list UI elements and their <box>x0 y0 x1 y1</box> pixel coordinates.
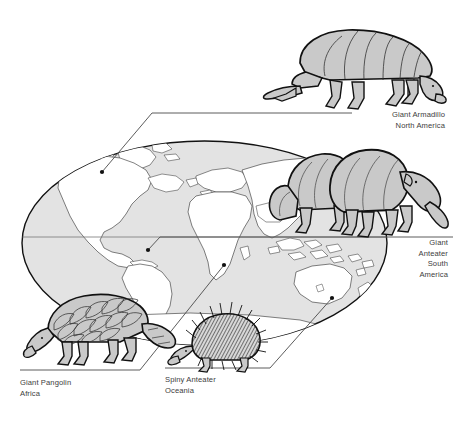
distribution-figure <box>0 0 453 425</box>
marker-africa <box>222 263 226 267</box>
caption-region-name-line1: South <box>418 259 448 270</box>
caption-animal-name-line2: Anteater <box>418 249 448 260</box>
caption-giant-anteater: Giant Anteater South America <box>418 238 448 280</box>
caption-giant-armadillo: Giant Armadillo North America <box>392 110 445 131</box>
caption-animal-name: Spiny Anteater <box>165 375 216 386</box>
caption-region-name: North America <box>392 121 445 132</box>
caption-animal-name: Giant Pangolin <box>20 378 71 389</box>
pangolin-eye <box>41 337 43 339</box>
caption-region-name-line2: America <box>418 270 448 281</box>
marker-north-america <box>100 170 104 174</box>
armadillo-eye <box>432 85 434 87</box>
marker-south-america <box>146 248 150 252</box>
caption-spiny-anteater: Spiny Anteater Oceania <box>165 375 216 396</box>
caption-giant-pangolin: Giant Pangolin Africa <box>20 378 71 399</box>
marker-oceania <box>330 296 334 300</box>
caption-region-name: Oceania <box>165 386 216 397</box>
anteater-front-eye <box>415 181 417 183</box>
caption-animal-name-line1: Giant <box>418 238 448 249</box>
caption-region-name: Africa <box>20 389 71 400</box>
echidna-eye <box>185 350 187 352</box>
caption-animal-name: Giant Armadillo <box>392 110 445 121</box>
